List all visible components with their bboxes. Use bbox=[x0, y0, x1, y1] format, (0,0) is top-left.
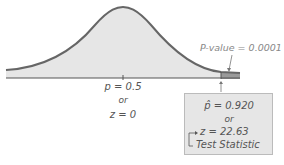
center-label-p: p = 0.5 bbox=[105, 81, 142, 92]
center-label-or: or bbox=[118, 95, 127, 105]
pvalue-arrow bbox=[229, 55, 232, 70]
arrow-up-head bbox=[219, 81, 223, 84]
pvalue-label: P-value = 0.0001 bbox=[200, 42, 282, 53]
bracket-arrow bbox=[185, 94, 274, 156]
test-statistic-box: p̂ = 0.920 or z = 22.63 Test Statistic bbox=[184, 93, 273, 155]
center-label-z: z = 0 bbox=[110, 109, 136, 120]
